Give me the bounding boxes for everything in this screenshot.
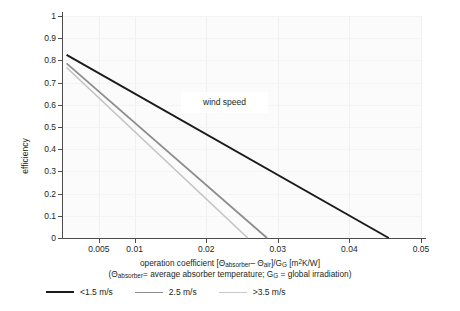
- legend-item: >3.5 m/s: [219, 288, 286, 297]
- y-tick-label: 0.3: [44, 167, 56, 176]
- legend-label: 2.5 m/s: [169, 288, 197, 297]
- y-tick-label: 0.1: [44, 212, 56, 221]
- gridline-vertical: [421, 16, 422, 238]
- x-tick-label: 0.02: [198, 245, 215, 254]
- y-axis-title: efficiency: [20, 138, 30, 173]
- y-tick-label: 0.4: [44, 145, 56, 154]
- y-tick-label: 0: [51, 234, 56, 243]
- x-axis-subtitle: (Θabsorber= average absorber temperature…: [0, 269, 460, 280]
- efficiency-chart-figure: efficiency 00.10.20.30.40.50.60.70.80.91…: [0, 0, 460, 311]
- legend-item: 2.5 m/s: [135, 288, 197, 297]
- y-tick-label: 1: [51, 12, 56, 21]
- x-tick-label: 0.005: [88, 245, 109, 254]
- series-line: [67, 55, 389, 238]
- y-tick-label: 0.2: [44, 189, 56, 198]
- x-tick-label: 0.01: [126, 245, 143, 254]
- y-tick-label: 0.8: [44, 56, 56, 65]
- legend-item: <1.5 m/s: [46, 288, 113, 297]
- x-tick-label: 0.04: [341, 245, 358, 254]
- data-series-lines: [63, 16, 421, 238]
- legend-label: <1.5 m/s: [80, 288, 113, 297]
- legend-color-swatch: [135, 292, 163, 293]
- y-tick-label: 0.5: [44, 123, 56, 132]
- legend-color-swatch: [219, 292, 247, 293]
- legend: <1.5 m/s2.5 m/s>3.5 m/s: [46, 288, 308, 297]
- y-tick-label: 0.6: [44, 101, 56, 110]
- y-tick-label: 0.9: [44, 34, 56, 43]
- y-tick-label: 0.7: [44, 78, 56, 87]
- legend-label: >3.5 m/s: [253, 288, 286, 297]
- wind-speed-annotation: wind speed: [181, 92, 268, 113]
- legend-color-swatch: [46, 291, 74, 293]
- x-tick-label: 0.05: [413, 245, 430, 254]
- x-axis-line: [58, 238, 426, 239]
- x-tick-label: 0.03: [270, 245, 287, 254]
- plot-area: 00.10.20.30.40.50.60.70.80.91 0.0050.010…: [63, 16, 421, 238]
- x-axis-title: operation coefficient [Θabsorber– Θair]/…: [0, 258, 460, 269]
